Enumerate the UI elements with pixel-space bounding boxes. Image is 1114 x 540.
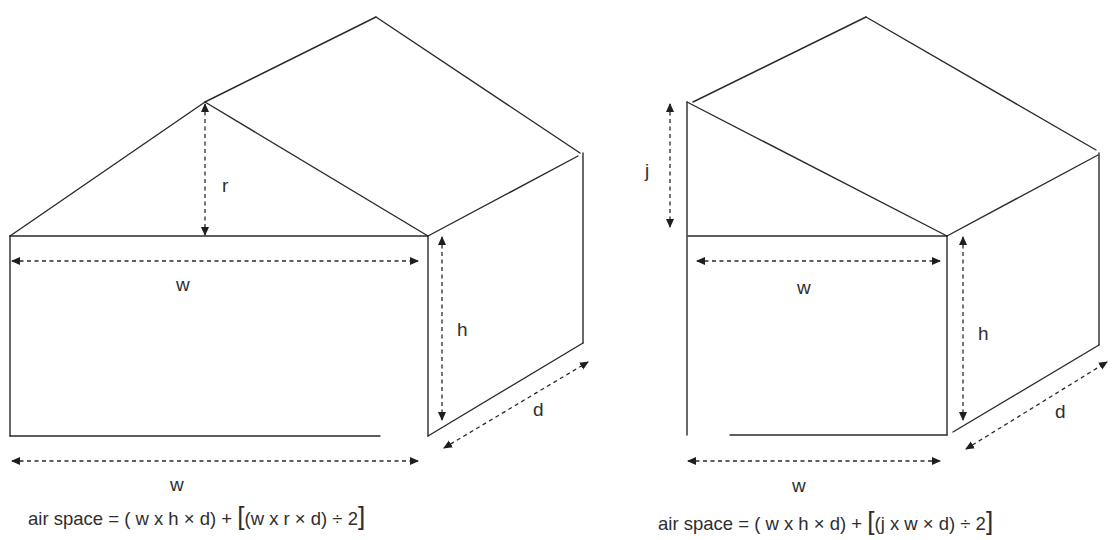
air-space-diagrams: r w h d w air space = ( w x h × d) + [(w… [0,0,1114,540]
height-label: h [457,319,468,340]
roof-eave-edge [428,156,578,236]
gable-roof-diagram: r w h d w air space = ( w x h × d) + [(w… [10,17,588,531]
gable-building-outline [10,17,583,436]
formula-prefix: air space = ( w x h × d) + [28,508,237,529]
roof-front-slope [687,102,947,236]
side-wall-bottom-edge [953,345,1099,432]
roof-top-edge [866,17,1096,150]
depth-label: d [1055,401,1066,422]
width-top-label: w [796,277,811,298]
gable-right-slope [205,102,428,236]
height-label: h [978,323,989,344]
formula-close-bracket: ] [358,501,365,531]
formula-inner: (w x r × d) ÷ 2 [244,508,357,529]
depth-label: d [533,399,544,420]
lean-to-air-space-formula: air space = ( w x h × d) + [(j x w × d) … [658,506,993,536]
width-bottom-label: w [169,474,184,495]
formula-inner: (j x w × d) ÷ 2 [874,513,985,534]
width-bottom-label: w [791,475,806,496]
roof-left-edge [693,17,866,102]
side-wall-bottom-edge [428,343,583,436]
formula-prefix: air space = ( w x h × d) + [658,513,867,534]
lean-to-building-outline [687,17,1099,435]
lean-to-roof-diagram: j w h d w air space = ( w x h × d) + [(j… [644,17,1107,536]
roof-ridge-line [205,17,376,102]
gable-left-slope [10,102,205,236]
depth-dimension-arrow [444,362,588,448]
roof-back-slope [376,17,580,153]
gable-air-space-formula: air space = ( w x h × d) + [(w x r × d) … [28,501,365,531]
formula-close-bracket: ] [986,506,993,536]
roof-eave-edge [947,155,1098,236]
depth-dimension-arrow [966,362,1107,449]
width-top-label: w [175,274,190,295]
ridge-height-label: r [222,175,229,196]
roof-rise-label: j [644,160,649,181]
